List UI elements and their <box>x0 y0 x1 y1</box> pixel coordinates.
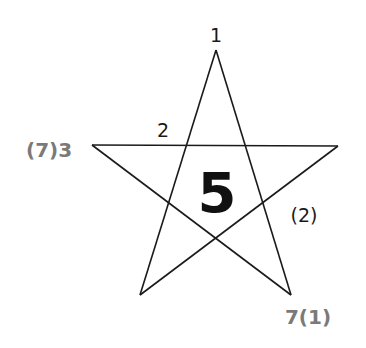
label-top-vertex: 1 <box>210 24 222 46</box>
edge-left-to-bottom-right <box>92 145 291 295</box>
label-upper-left-edge: 2 <box>157 119 169 141</box>
center-number: 5 <box>198 160 237 225</box>
pentagram-diagram: 1 (7)3 2 (2) 7(1) 5 <box>0 0 366 348</box>
edge-right-to-left <box>92 145 338 146</box>
label-bottom-right-vertex: 7(1) <box>285 305 331 329</box>
label-right-edge: (2) <box>291 204 318 226</box>
label-left-vertex: (7)3 <box>26 138 72 162</box>
